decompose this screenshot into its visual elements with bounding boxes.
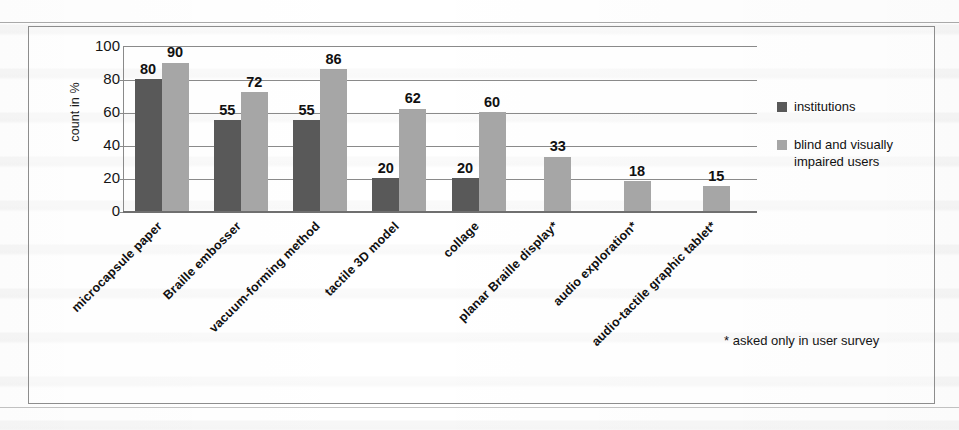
x-category-label: tactile 3D model (322, 219, 402, 299)
chart-legend: institutionsblind and visually impaired … (777, 99, 927, 192)
bar-users[interactable] (479, 112, 506, 211)
scan-ruled-line-top (0, 22, 959, 23)
legend-item[interactable]: institutions (777, 99, 927, 115)
bar-value-label: 72 (235, 75, 274, 90)
y-tick-label: 20 (76, 170, 120, 185)
legend-swatch-icon (777, 102, 787, 112)
bar-group: 2062 (362, 47, 441, 211)
bar-users[interactable] (624, 181, 651, 211)
bar-group: 8090 (124, 47, 203, 211)
bar-value-label: 86 (314, 52, 353, 67)
bar-value-label: 15 (697, 169, 736, 184)
bar-value-label: 18 (618, 164, 657, 179)
scan-ruled-line-bottom (0, 407, 959, 408)
figure-frame: count in % 020406080100 8090557255862062… (28, 26, 935, 404)
bar-users[interactable] (162, 63, 189, 212)
y-tick-label: 60 (76, 104, 120, 119)
y-tick-label: 40 (76, 137, 120, 152)
y-tick-label: 0 (76, 203, 120, 218)
bar-users[interactable] (241, 92, 268, 211)
bar-users[interactable] (320, 69, 347, 211)
x-category-label: Braille embosser (160, 219, 243, 302)
bar-group: 5572 (203, 47, 282, 211)
bar-users[interactable] (703, 186, 730, 211)
bar-group: 18 (600, 47, 679, 211)
bar-value-label: 62 (393, 91, 432, 106)
bar-institutions[interactable] (452, 178, 479, 211)
bar-group: 2060 (441, 47, 520, 211)
bar-institutions[interactable] (372, 178, 399, 211)
footnote-text: * asked only in user survey (724, 333, 879, 348)
y-tick-label: 80 (76, 71, 120, 86)
x-axis-baseline (123, 211, 757, 213)
legend-label: blind and visually impaired users (794, 137, 927, 170)
legend-item[interactable]: blind and visually impaired users (777, 137, 927, 170)
bar-institutions[interactable] (135, 79, 162, 211)
legend-label: institutions (794, 99, 855, 115)
y-tick-label: 100 (76, 38, 120, 53)
y-axis-tick-labels: 020406080100 (57, 46, 120, 211)
bar-group: 33 (520, 47, 599, 211)
legend-swatch-icon (777, 140, 787, 150)
bar-value-label: 60 (473, 95, 512, 110)
bar-institutions[interactable] (214, 120, 241, 211)
bar-group: 15 (679, 47, 758, 211)
x-category-label: microcapsule paper (69, 219, 165, 315)
bar-value-label: 90 (156, 45, 195, 60)
bar-value-label: 33 (538, 139, 577, 154)
bar-users[interactable] (399, 109, 426, 211)
x-category-label: audio exploration* (550, 219, 640, 309)
plot-area: 80905572558620622060331815 (123, 46, 757, 211)
x-category-label: collage (440, 219, 481, 260)
bar-users[interactable] (544, 157, 571, 211)
bar-group: 5586 (283, 47, 362, 211)
bar-institutions[interactable] (293, 120, 320, 211)
